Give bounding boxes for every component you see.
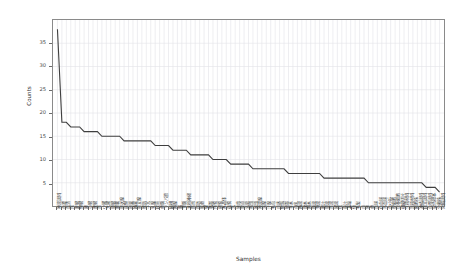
y-tick-label: 30 bbox=[6, 63, 46, 68]
y-tick-label: 15 bbox=[6, 134, 46, 139]
x-tick-label: 対照試料 bbox=[442, 193, 446, 209]
chart-figure: Counts 5101520253035 唾液試料血漿血清尿肝臓腎臓肺心臓脾臓胃… bbox=[0, 0, 472, 277]
y-tick-label: 25 bbox=[6, 87, 46, 92]
series-line bbox=[57, 29, 439, 192]
y-tick-label: 35 bbox=[6, 40, 46, 45]
x-axis-title: Samples bbox=[52, 256, 445, 262]
y-tick-label: 5 bbox=[6, 181, 46, 186]
y-tick-label: 20 bbox=[6, 110, 46, 115]
y-axis-tick-labels: 5101520253035 bbox=[0, 0, 46, 277]
plot-area bbox=[52, 19, 445, 207]
x-axis-tick-labels: 唾液試料血漿血清尿肝臓腎臓肺心臓脾臓胃小腸大腸膵臓胆嚢甲状腺副腎卵巣精巣前立腺膀… bbox=[52, 209, 445, 253]
series-counts bbox=[53, 20, 444, 206]
y-tick-label: 10 bbox=[6, 157, 46, 162]
